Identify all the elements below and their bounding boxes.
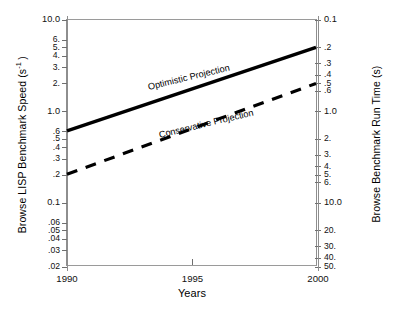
y-tick-label-right: 6. — [324, 178, 331, 187]
x-tick — [318, 16, 319, 271]
x-axis-title: Years — [66, 287, 318, 299]
x-tick-label: 1990 — [56, 273, 77, 284]
y-tick-label-right: 2. — [324, 134, 331, 143]
y-tick-label-left: .2 — [53, 170, 60, 179]
y-tick-label-left: 4. — [53, 51, 60, 60]
plot-area: 10.06.5.4.3.2.1.0.6.5.4.3.20.1.06.05.04.… — [66, 19, 317, 266]
y-tick-label-right: 50. — [324, 262, 336, 271]
y-tick-label-left: .3 — [53, 154, 60, 163]
y-tick-label-left: .04 — [48, 234, 60, 243]
y-tick-label-right: 3. — [324, 150, 331, 159]
x-tick-label: 2000 — [307, 273, 328, 284]
y-tick-label-right: 20. — [324, 226, 336, 235]
y-tick-label-left: 1.0 — [47, 107, 60, 116]
y-axis-left-title: Browse LISP Benchmark Speed (s-1 ) — [14, 25, 28, 265]
y-tick-label-left: .03 — [48, 246, 60, 255]
x-tick-label: 1995 — [182, 273, 203, 284]
y-tick-label-right: .2 — [324, 43, 331, 52]
y-tick-label-left: 10.0 — [42, 15, 60, 24]
y-tick-label-right: 30. — [324, 242, 336, 251]
y-tick-label-right: 1.0 — [324, 107, 337, 116]
series-line-optimistic-projection — [67, 47, 316, 131]
y-tick-label-right: 0.1 — [324, 15, 337, 24]
y-axis-right-title: Browse Benchmark Run Time (s) — [370, 24, 382, 264]
chart-figure: Browse LISP Benchmark Speed (s-1 ) Brows… — [0, 0, 399, 309]
y-tick-label-right: .3 — [324, 59, 331, 68]
y-tick-label-left: 3. — [53, 63, 60, 72]
y-tick-label-right: .6 — [324, 86, 331, 95]
y-tick-label-left: 0.1 — [47, 198, 60, 207]
y-tick-label-left: .4 — [53, 143, 60, 152]
y-tick-label-left: 2. — [53, 79, 60, 88]
y-tick-label-right: 10.0 — [324, 198, 342, 207]
series-lines — [67, 20, 316, 265]
y-tick-label-left: .02 — [48, 262, 60, 271]
